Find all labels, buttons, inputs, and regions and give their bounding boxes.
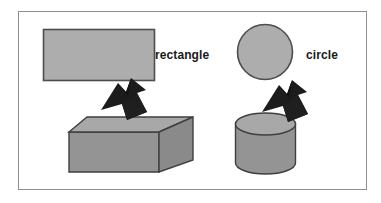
circle-shape <box>238 25 293 80</box>
figure-canvas: rectangle circle <box>0 0 381 203</box>
arrow-box-to-rectangle <box>101 78 147 120</box>
label-rectangle: rectangle <box>155 49 209 62</box>
box-front-face <box>69 132 159 172</box>
figure-graphics <box>0 0 381 203</box>
rectangle-shape <box>44 30 155 81</box>
label-circle: circle <box>306 49 338 62</box>
